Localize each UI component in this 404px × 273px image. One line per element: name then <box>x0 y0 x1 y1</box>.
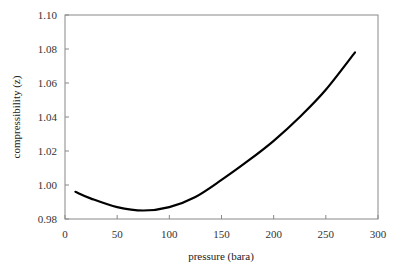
y-tick-label: 1.02 <box>38 145 57 157</box>
y-tick-label: 0.98 <box>38 213 58 225</box>
x-tick-label: 0 <box>62 228 68 240</box>
y-tick-label: 1.08 <box>38 43 58 55</box>
x-tick-label: 100 <box>161 228 178 240</box>
y-axis-ticks: 0.981.001.021.041.061.081.10 <box>38 9 69 225</box>
x-tick-label: 200 <box>265 228 282 240</box>
y-tick-label: 1.10 <box>38 9 58 21</box>
y-axis-label: compressibility (z) <box>10 75 23 158</box>
x-tick-label: 150 <box>213 228 230 240</box>
plot-frame <box>65 15 378 219</box>
y-tick-label: 1.00 <box>38 179 58 191</box>
x-tick-label: 300 <box>370 228 387 240</box>
x-tick-label: 250 <box>318 228 335 240</box>
z-factor-curve <box>75 52 355 210</box>
y-tick-label: 1.04 <box>38 111 58 123</box>
chart: 050100150200250300 0.981.001.021.041.061… <box>0 0 404 273</box>
x-axis-label: pressure (bara) <box>188 250 254 263</box>
x-tick-label: 50 <box>112 228 124 240</box>
y-tick-label: 1.06 <box>38 77 58 89</box>
